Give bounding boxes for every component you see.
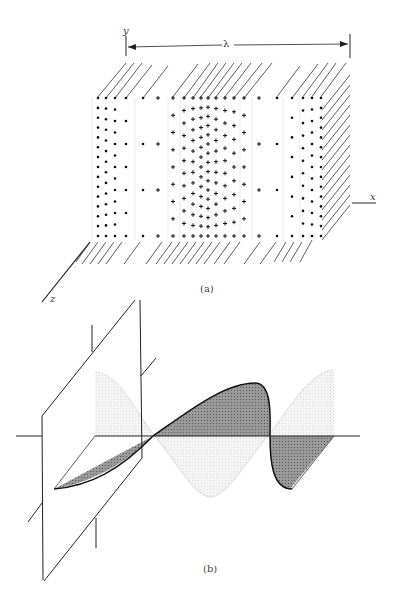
x-axis-label: x <box>370 191 376 202</box>
part-b-diagram <box>16 300 360 581</box>
caption-a: (a) <box>200 283 214 294</box>
z-axis-label: z <box>50 293 55 304</box>
y-axis-label: y <box>123 25 129 36</box>
caption-b: (b) <box>203 563 217 574</box>
diagram-canvas <box>0 0 398 613</box>
wavelength-label: λ <box>223 38 229 49</box>
part-a-diagram <box>42 34 376 302</box>
